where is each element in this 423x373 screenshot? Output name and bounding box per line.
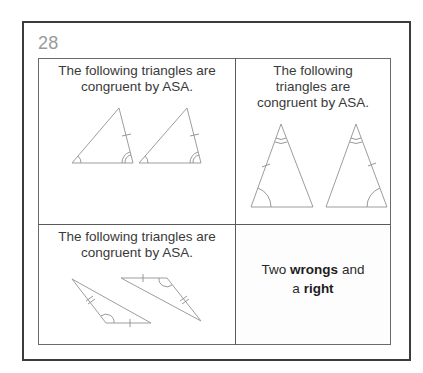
triangle-icon	[121, 274, 201, 321]
triangle-figures	[0, 0, 423, 373]
triangle-icon	[139, 108, 201, 163]
triangle-icon	[72, 108, 133, 163]
triangle-icon	[251, 124, 313, 207]
triangle-icon	[326, 124, 387, 207]
triangle-icon	[72, 279, 151, 327]
